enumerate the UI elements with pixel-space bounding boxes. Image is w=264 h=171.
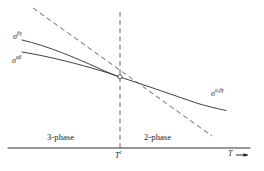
x-axis-label-t: T [228, 150, 232, 158]
sigma-superscript: βγ [17, 30, 22, 36]
plot-canvas [0, 0, 264, 171]
sigma-superscript: α,βγ [215, 87, 224, 93]
tc-superscript: c [119, 149, 121, 155]
curve-sigma-beta-gamma [22, 40, 119, 77]
curve-label-sigma-alpha-beta: σαβ [12, 55, 21, 65]
curve-label-sigma-beta-gamma: σβγ [13, 31, 22, 41]
region-label-two-phase: 2-phase [144, 133, 171, 142]
region-label-three-phase: 3-phase [47, 133, 74, 142]
transition-point-marker [118, 75, 122, 79]
x-axis-arrow-head [244, 153, 249, 157]
figure-container: σβγ σαβ σα,βγ 3-phase 2-phase Tc T [0, 0, 264, 171]
x-axis-tick-label-tc: Tc [115, 150, 122, 160]
dashed-tangent-line [33, 8, 212, 136]
sigma-superscript: αβ [16, 54, 22, 60]
curve-label-sigma-alpha-betagamma: σα,βγ [211, 88, 224, 98]
